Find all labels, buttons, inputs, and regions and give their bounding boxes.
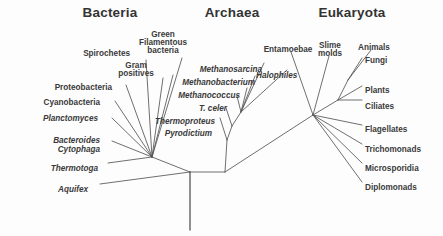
branch-archaea-stem bbox=[225, 140, 227, 172]
taxon-label-thermotoga: Thermotoga bbox=[0, 165, 98, 173]
domain-header-eukaryota: Eukaryota bbox=[292, 6, 412, 20]
taxon-label-plants: Plants bbox=[365, 87, 390, 95]
branch-eukaryota-stem bbox=[225, 115, 313, 172]
taxon-label-animals: Animals bbox=[324, 44, 424, 52]
branch-e-flagellates bbox=[313, 115, 362, 125]
branch-b-aquifex bbox=[100, 172, 190, 184]
taxon-label-ciliates: Ciliates bbox=[365, 103, 394, 111]
taxon-label-methanosarcina: Methanosarcina bbox=[112, 66, 262, 74]
taxon-label-pyrodictium: Pyrodictium bbox=[62, 130, 212, 138]
taxon-label-aquifex: Aquifex bbox=[0, 186, 88, 194]
tree-of-life-figure: BacteriaArchaeaEukaryotaSpirochetesGreen… bbox=[0, 0, 443, 236]
taxon-label-microsporidia: Microsporidia bbox=[365, 165, 419, 173]
branch-a-pyrodictium bbox=[220, 118, 227, 140]
branch-e-trichomonads bbox=[313, 115, 362, 144]
domain-header-bacteria: Bacteria bbox=[50, 6, 170, 20]
branch-e-entamoebae bbox=[291, 52, 313, 115]
branch-bacteria-stem bbox=[152, 157, 190, 172]
taxon-label-fungi: Fungi bbox=[365, 57, 387, 65]
taxon-label-thermoproteus: Thermoproteus bbox=[65, 118, 215, 126]
taxon-label-methanobacterium: Methanobacterium bbox=[105, 79, 255, 87]
taxon-label-flagellates: Flagellates bbox=[365, 126, 407, 134]
branch-e-diplomonads bbox=[313, 115, 362, 182]
branch-e-slime-molds bbox=[313, 56, 329, 115]
taxon-label-methanococcus: Methanococcus bbox=[90, 92, 240, 100]
taxon-label-halophiles: Halophiles bbox=[256, 72, 297, 80]
taxon-label-bacteria: bacteria bbox=[113, 47, 213, 55]
branch-a-crown-stem bbox=[232, 112, 241, 126]
taxon-label-t-celer: T. celer bbox=[77, 105, 227, 113]
branch-b-bacteroides-cytophaga bbox=[112, 141, 152, 157]
branch-b-thermotoga bbox=[108, 157, 152, 163]
taxon-label-trichomonads: Trichomonads bbox=[365, 146, 421, 154]
taxon-label-cytophaga: Cytophaga bbox=[0, 146, 100, 154]
taxon-label-spirochetes: Spirochetes bbox=[0, 50, 130, 58]
domain-header-archaea: Archaea bbox=[172, 6, 292, 20]
taxon-label-diplomonads: Diplomonads bbox=[365, 184, 417, 192]
branch-e-microsporidia bbox=[313, 115, 362, 163]
branch-a-upper-stem bbox=[227, 126, 232, 140]
